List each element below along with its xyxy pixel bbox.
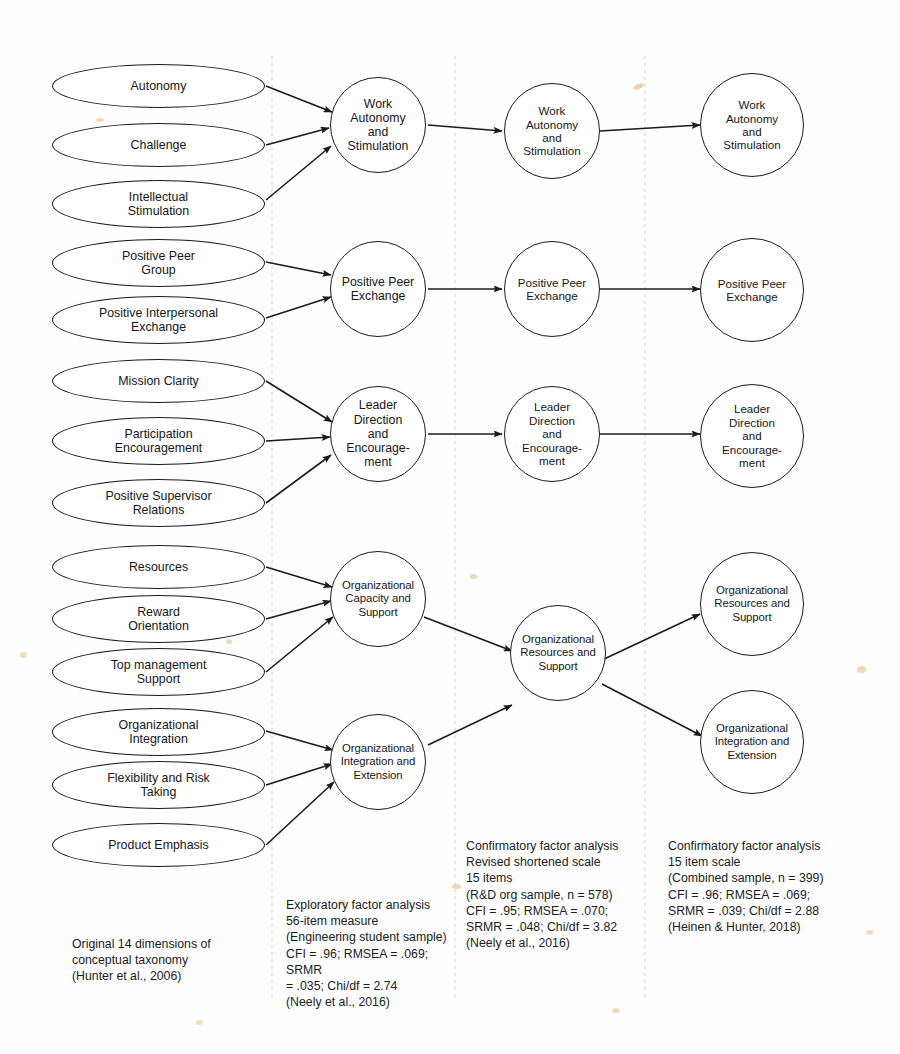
cfa-final-factor-label: Leader Direction and Encourage- ment [722,402,782,469]
dimension-label: Positive Peer Group [122,249,195,278]
dimension-ellipse[interactable]: Organizational Integration [52,708,265,756]
cfa-revised-factor-circle[interactable]: Positive Peer Exchange [504,241,600,337]
cfa-revised-factor-circle[interactable]: Organizational Resources and Support [510,605,606,701]
dimension-label: Participation Encouragement [115,427,202,456]
dimension-label: Intellectual Stimulation [128,190,189,219]
dimension-label: Flexibility and Risk Taking [107,771,210,800]
dimension-ellipse[interactable]: Positive Interpersonal Exchange [52,296,265,344]
dimension-label: Challenge [131,138,187,152]
dimension-label: Positive Interpersonal Exchange [99,306,218,335]
scan-speck [96,118,104,122]
cfa-final-factor-circle[interactable]: Positive Peer Exchange [700,238,804,342]
caption-confirmatory-revised: Confirmatory factor analysis Revised sho… [466,838,654,952]
cfa-revised-factor-label: Work Autonomy and Stimulation [523,104,580,158]
dimension-ellipse[interactable]: Positive Peer Group [52,239,265,287]
cfa-final-factor-circle[interactable]: Work Autonomy and Stimulation [700,73,804,177]
dimension-ellipse[interactable]: Positive Supervisor Relations [52,479,265,527]
dimension-ellipse[interactable]: Participation Encouragement [52,417,265,465]
dimension-ellipse[interactable]: Resources [52,545,265,589]
scan-speck [612,1008,620,1013]
path-arrows [266,86,702,845]
cfa-revised-factor-circle[interactable]: Work Autonomy and Stimulation [504,83,600,179]
dimension-ellipse[interactable]: Reward Orientation [52,595,265,643]
cfa-final-factor-label: Organizational Resources and Support [714,584,789,624]
efa-factor-label: Organizational Capacity and Support [342,579,414,619]
dimension-label: Reward Orientation [128,605,189,634]
scan-speck [20,652,27,658]
caption-exploratory-factor-analysis: Exploratory factor analysis 56-item meas… [286,897,466,1011]
cfa-revised-factor-label: Positive Peer Exchange [518,276,586,303]
dimension-ellipse[interactable]: Mission Clarity [52,359,265,403]
cfa-final-factor-circle[interactable]: Organizational Resources and Support [700,552,804,656]
figure-canvas: Autonomy Challenge Intellectual Stimulat… [0,0,900,1054]
cfa-revised-factor-circle[interactable]: Leader Direction and Encourage- ment [504,386,600,482]
dimension-ellipse[interactable]: Challenge [52,123,265,167]
caption-confirmatory-final: Confirmatory factor analysis 15 item sca… [668,838,868,935]
cfa-final-factor-label: Positive Peer Exchange [718,277,786,304]
scan-speck [632,82,644,90]
dimension-label: Product Emphasis [108,838,209,852]
dimension-ellipse[interactable]: Flexibility and Risk Taking [52,761,265,809]
dimension-ellipse[interactable]: Intellectual Stimulation [52,180,265,228]
scan-speck [196,1020,203,1025]
cfa-final-factor-label: Organizational Integration and Extension [715,722,790,762]
dimension-label: Mission Clarity [118,374,199,388]
dimension-label: Top management Support [111,658,207,687]
cfa-revised-factor-label: Organizational Resources and Support [520,633,595,673]
dimension-ellipse[interactable]: Product Emphasis [52,823,265,867]
efa-factor-label: Leader Direction and Encourage- ment [346,398,410,469]
efa-factor-circle[interactable]: Leader Direction and Encourage- ment [330,386,426,482]
dimension-ellipse[interactable]: Autonomy [52,64,265,108]
efa-factor-circle[interactable]: Positive Peer Exchange [330,241,426,337]
efa-factor-circle[interactable]: Work Autonomy and Stimulation [330,77,426,173]
scan-speck [470,574,477,579]
dimension-ellipse[interactable]: Top management Support [52,648,265,696]
dimension-label: Resources [129,560,188,574]
scan-speck [857,666,866,673]
efa-factor-label: Positive Peer Exchange [342,275,414,304]
efa-factor-label: Work Autonomy and Stimulation [348,97,409,154]
efa-factor-circle[interactable]: Organizational Capacity and Support [330,551,426,647]
cfa-final-factor-circle[interactable]: Organizational Integration and Extension [700,690,804,794]
dimension-label: Organizational Integration [119,718,199,747]
efa-factor-label: Organizational Integration and Extension [341,742,416,782]
efa-factor-circle[interactable]: Organizational Integration and Extension [330,714,426,810]
cfa-final-factor-label: Work Autonomy and Stimulation [723,98,780,152]
cfa-revised-factor-label: Leader Direction and Encourage- ment [522,400,582,467]
scan-speck [452,884,461,889]
scan-speck [226,639,232,644]
dimension-label: Positive Supervisor Relations [105,489,211,518]
caption-original-dimensions: Original 14 dimensions of conceptual tax… [72,936,282,985]
dimension-label: Autonomy [131,79,187,93]
cfa-final-factor-circle[interactable]: Leader Direction and Encourage- ment [700,384,804,488]
